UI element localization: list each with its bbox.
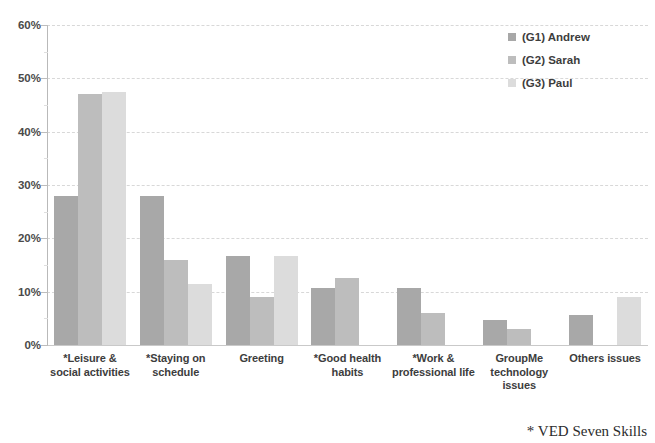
y-axis-minor-tick — [44, 212, 48, 213]
bar — [311, 288, 335, 345]
y-axis-tick-label: 50% — [3, 72, 41, 84]
legend-swatch-icon — [508, 56, 516, 64]
legend-item-label: (G1) Andrew — [522, 31, 590, 43]
x-axis-tick-label: *Leisure & social activities — [47, 352, 133, 379]
y-axis-minor-tick — [44, 52, 48, 53]
y-axis-tick-label: 40% — [3, 126, 41, 138]
y-axis-tick — [41, 345, 48, 346]
bar — [140, 196, 164, 345]
bar-chart: 60%50%40%30%20%10%0% (G1) Andrew(G2) Sar… — [0, 0, 655, 443]
bar — [102, 92, 126, 345]
x-axis-tick-label: Greeting — [219, 352, 305, 366]
bar-group — [390, 25, 476, 345]
bar — [188, 284, 212, 345]
y-axis-minor-tick — [44, 318, 48, 319]
y-axis-tick — [41, 292, 48, 293]
y-axis-tick-label: 0% — [3, 339, 41, 351]
y-axis-tick-label: 10% — [3, 286, 41, 298]
bar — [250, 297, 274, 345]
y-axis-minor-tick — [44, 105, 48, 106]
bar-group — [133, 25, 219, 345]
bar-group — [305, 25, 391, 345]
y-axis-tick — [41, 132, 48, 133]
y-axis-tick-label: 30% — [3, 179, 41, 191]
y-axis-tick — [41, 78, 48, 79]
x-axis-line — [47, 345, 648, 346]
x-axis-tick-label: *Good health habits — [305, 352, 391, 379]
bar — [226, 256, 250, 345]
y-axis-tick-label: 20% — [3, 232, 41, 244]
bar-group — [47, 25, 133, 345]
bar — [617, 297, 641, 345]
bar — [54, 196, 78, 345]
legend-swatch-icon — [508, 79, 516, 87]
y-axis-tick — [41, 25, 48, 26]
bar-group — [219, 25, 305, 345]
y-axis-tick — [41, 238, 48, 239]
bar — [335, 278, 359, 345]
y-axis-labels: 60%50%40%30%20%10%0% — [0, 0, 41, 443]
legend-item: (G3) Paul — [508, 73, 648, 93]
legend-item-label: (G2) Sarah — [522, 54, 580, 66]
chart-footnote: * VED Seven Skills — [527, 423, 647, 440]
bar — [507, 329, 531, 345]
bar — [164, 260, 188, 345]
bar — [274, 256, 298, 345]
y-axis-tick — [41, 185, 48, 186]
bar — [569, 315, 593, 345]
x-axis-tick-label: Others issues — [562, 352, 648, 366]
legend-swatch-icon — [508, 33, 516, 41]
y-axis-minor-tick — [44, 158, 48, 159]
bar — [78, 94, 102, 345]
chart-legend: (G1) Andrew(G2) Sarah(G3) Paul — [508, 27, 648, 96]
y-axis-minor-tick — [44, 265, 48, 266]
x-axis-tick-label: GroupMe technology issues — [476, 352, 562, 393]
y-axis-tick-label: 60% — [3, 19, 41, 31]
x-axis-tick-label: *Work & professional life — [390, 352, 476, 379]
legend-item: (G2) Sarah — [508, 50, 648, 70]
x-axis-tick-label: *Staying on schedule — [133, 352, 219, 379]
bar — [421, 313, 445, 345]
legend-item: (G1) Andrew — [508, 27, 648, 47]
bar — [483, 320, 507, 345]
bar — [397, 288, 421, 345]
legend-item-label: (G3) Paul — [522, 77, 572, 89]
